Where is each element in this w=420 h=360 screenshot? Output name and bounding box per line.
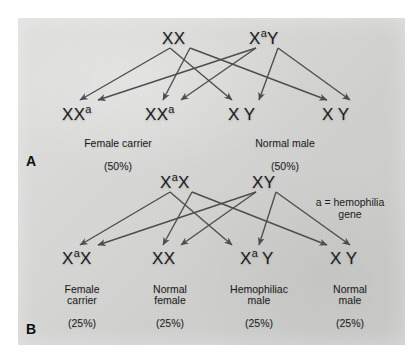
panel-b-offspring-2-genotype: XX [152,250,175,267]
panel-a-parent-mother-genotype: XX [162,30,185,47]
panel-b-caption-female-carrier: Female carrier (25%) [40,272,124,341]
figure-root: XX XaY XXa XXa XY XY Female carrier (50%… [0,0,420,360]
panel-b-caption-normal-female: Normal female (25%) [128,272,212,341]
panel-a-offspring-1-genotype: XXa [62,106,92,123]
panel-b-parent-mother-genotype: XaX [160,174,190,191]
panel-a-caption-normal-male: Normal male (50%) [225,126,345,184]
panel-b-offspring-3-genotype: XaY [240,250,274,267]
panel-b-caption-hemophiliac-male: Hemophiliac male (25%) [212,272,306,341]
panel-b-letter: B [26,322,36,336]
panel-b-parent-father-genotype: XY [252,174,275,191]
panel-a-parent-father-genotype: XaY [249,30,279,47]
panel-a-offspring-4-genotype: XY [322,106,349,123]
panel-a-letter: A [26,154,36,168]
panel-a-offspring-3-genotype: XY [228,106,255,123]
panel-b-offspring-1-genotype: XaX [62,250,92,267]
panel-b-caption-normal-male: Normal male (25%) [308,272,392,341]
hemophilia-gene-legend: a = hemophilia gene [298,196,402,220]
panel-a-offspring-2-genotype: XXa [145,106,175,123]
panel-b-offspring-4-genotype: XY [330,250,357,267]
